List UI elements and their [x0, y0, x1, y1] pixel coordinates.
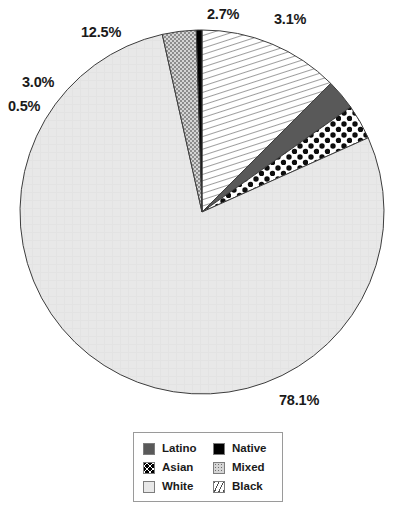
chart-legend: LatinoNativeAsianMixedWhiteBlack: [133, 432, 283, 502]
legend-item-latino[interactable]: Latino: [143, 439, 205, 458]
legend-grid: LatinoNativeAsianMixedWhiteBlack: [143, 439, 275, 495]
solid-light-swatch-icon: [143, 481, 155, 493]
legend-item-mixed[interactable]: Mixed: [213, 458, 275, 477]
legend-item-native[interactable]: Native: [213, 439, 275, 458]
legend-item-asian[interactable]: Asian: [143, 458, 205, 477]
slice-label-mixed: 3.0%: [22, 74, 54, 90]
pie-chart-svg: [0, 0, 410, 430]
slice-label-asian: 3.1%: [274, 11, 306, 27]
pie-slices-group: [20, 30, 384, 394]
legend-item-label: Mixed: [232, 462, 265, 474]
legend-item-white[interactable]: White: [143, 477, 205, 496]
slice-label-white: 78.1%: [279, 392, 319, 408]
legend-item-label: Black: [232, 481, 263, 493]
legend-item-black[interactable]: Black: [213, 477, 275, 496]
pie-chart-figure: 12.5% 2.7% 3.1% 78.1% 3.0% 0.5% LatinoNa…: [0, 0, 410, 515]
slice-label-latino: 2.7%: [207, 6, 239, 22]
slice-label-native: 0.5%: [8, 98, 40, 114]
slice-label-black: 12.5%: [81, 24, 121, 40]
solid-black-swatch-icon: [213, 443, 225, 455]
legend-item-label: Native: [232, 443, 267, 455]
stipple-swatch-icon: [213, 462, 225, 474]
solid-dark-swatch-icon: [143, 443, 155, 455]
legend-item-label: Asian: [162, 462, 193, 474]
diagonal-hatch-swatch-icon: [213, 481, 225, 493]
legend-item-label: Latino: [162, 443, 197, 455]
polka-dots-swatch-icon: [143, 462, 155, 474]
legend-item-label: White: [162, 481, 193, 493]
